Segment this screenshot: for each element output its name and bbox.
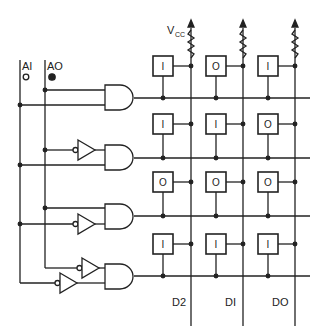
inverter-icon [78, 140, 95, 160]
output-label-d2: D2 [172, 296, 186, 308]
vcc-label: V [167, 24, 175, 36]
inverter-icon [78, 214, 95, 234]
cell-r4-d2: I [153, 234, 193, 278]
inverter-icon [60, 273, 77, 293]
input-label-a0: AO [47, 60, 63, 72]
svg-text:O: O [264, 177, 272, 188]
decoder-row-3 [18, 204, 310, 234]
vcc-arrow-icon [188, 20, 194, 27]
inverter-bubble-icon [55, 281, 60, 286]
cell-r3-d1: O [206, 172, 245, 218]
svg-text:O: O [212, 61, 220, 72]
cell-r4-d1: I [206, 234, 245, 278]
and-gate-icon [105, 145, 133, 170]
input-a0-state-filled-icon [49, 74, 55, 80]
output-label-d1: DI [225, 296, 236, 308]
svg-text:O: O [264, 119, 272, 130]
cell-r2-d1: I [206, 114, 245, 160]
inverter-bubble-icon [73, 148, 78, 153]
cell-r1-d1: O [206, 56, 245, 100]
inverter-icon [82, 258, 99, 278]
cell-r3-d0: O [258, 172, 297, 218]
decoder-row-2 [18, 140, 310, 170]
rom-decoder-diagram: AI AO [0, 0, 316, 331]
cell-r2-d0: O [258, 114, 297, 160]
cell-r4-d0: I [258, 234, 297, 278]
svg-text:I: I [162, 119, 165, 130]
svg-text:O: O [159, 177, 167, 188]
cell-r1-d2: I [153, 56, 193, 100]
cell-r1-d0: I [258, 56, 297, 100]
and-gate-icon [105, 264, 133, 289]
svg-text:I: I [215, 239, 218, 250]
svg-text:I: I [162, 61, 165, 72]
svg-text:I: I [267, 61, 270, 72]
input-a1-state-open-icon [23, 74, 29, 80]
vcc-subscript: CC [175, 31, 185, 38]
svg-text:I: I [162, 239, 165, 250]
vcc-arrow-icon [292, 20, 298, 27]
cell-r2-d2: I [153, 114, 193, 160]
inverter-bubble-icon [77, 266, 82, 271]
cell-r3-d2: O [153, 172, 193, 218]
inverter-bubble-icon [73, 222, 78, 227]
svg-text:O: O [212, 177, 220, 188]
input-label-a1: AI [22, 60, 32, 72]
svg-text:I: I [215, 119, 218, 130]
and-gate-icon [105, 85, 133, 110]
svg-text:I: I [267, 239, 270, 250]
vcc-arrow-icon [240, 20, 246, 27]
and-gate-icon [105, 204, 133, 229]
output-label-d0: DO [272, 296, 289, 308]
